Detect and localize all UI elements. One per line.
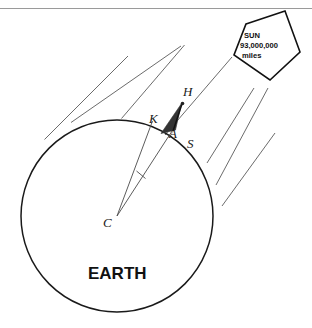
sun-name-label: SUN [244, 31, 260, 40]
label-point-s: S [187, 136, 194, 151]
earth-sun-diagram: SUN 93,000,000 miles H K A S C EARTH [0, 0, 312, 328]
sun-ray-5 [207, 88, 254, 163]
label-point-a: A [168, 126, 177, 141]
label-point-h: H [182, 84, 193, 99]
point-h-marker [181, 102, 185, 106]
label-point-c: C [103, 215, 112, 230]
label-point-k: K [148, 111, 159, 126]
sun-distance-unit: miles [242, 51, 261, 60]
sun-distance-value: 93,000,000 [240, 41, 278, 50]
sun-ray-7 [222, 133, 275, 206]
diagram-canvas: SUN 93,000,000 miles H K A S C EARTH [0, 0, 312, 328]
earth-title-label: EARTH [88, 264, 147, 283]
sun-ray-3 [122, 45, 185, 119]
